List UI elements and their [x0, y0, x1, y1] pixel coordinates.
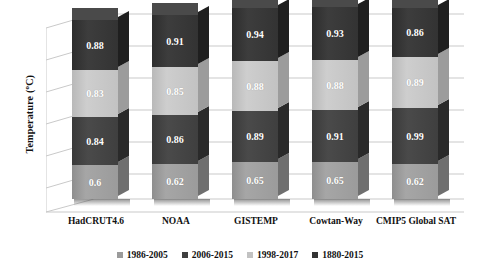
segment-1880-2015[interactable]: 0.86 [392, 8, 438, 57]
segment-1998-2017[interactable]: 0.83 [72, 70, 118, 117]
bar-top-face [152, 3, 198, 15]
segment-value: 0.94 [246, 29, 264, 40]
legend-item-1998-2017[interactable]: 1998-2017 [247, 250, 298, 260]
bar-shadow [74, 199, 130, 206]
segment-value: 0.86 [406, 27, 424, 38]
segment-value: 0.93 [326, 28, 344, 39]
segment-value: 0.84 [86, 136, 104, 147]
segment-value: 0.91 [166, 36, 184, 47]
bar-shadow [314, 199, 370, 206]
category-label-cmip5-global-sat: CMIP5 Global SAT [368, 216, 464, 227]
segment-value: 0.91 [326, 131, 344, 142]
legend-swatch-icon [312, 252, 318, 258]
segment-value: 0.88 [246, 81, 264, 92]
segment-1880-2015[interactable]: 0.88 [72, 20, 118, 70]
segment-1998-2017[interactable]: 0.88 [312, 60, 358, 110]
plot-area: 0.6 0.84 0.83 0.88 0.62 0.86 0.85 0.91 [46, 6, 464, 213]
bar-shadow [154, 199, 210, 206]
y-axis-title: Temperature (oC) [23, 44, 35, 184]
legend-item-2006-2015[interactable]: 2006-2015 [182, 250, 233, 260]
stacked-bar-chart: Temperature (oC) [0, 0, 480, 272]
y-axis-title-text: Temperature ( [24, 90, 35, 154]
bar-group-noaa[interactable]: 0.62 0.86 0.85 0.91 [152, 15, 210, 199]
segment-value: 0.89 [406, 77, 424, 88]
legend-item-1986-2005[interactable]: 1986-2005 [117, 250, 168, 260]
segment-1986-2005[interactable]: 0.65 [312, 162, 358, 199]
segment-1880-2015[interactable]: 0.93 [312, 7, 358, 60]
stacked-bar[interactable]: 0.62 0.99 0.89 0.86 [392, 8, 438, 199]
stacked-bar[interactable]: 0.62 0.86 0.85 0.91 [152, 15, 198, 199]
legend-label: 1880-2015 [322, 250, 363, 260]
chart-legend: 1986-2005 2006-2015 1998-2017 1880-2015 [0, 250, 480, 260]
segment-value: 0.62 [406, 176, 424, 187]
segment-value: 0.88 [326, 80, 344, 91]
bar-shadow [394, 199, 450, 206]
stacked-bar[interactable]: 0.6 0.84 0.83 0.88 [72, 20, 118, 199]
segment-value: 0.65 [326, 175, 344, 186]
stacked-bar[interactable]: 0.65 0.91 0.88 0.93 [312, 7, 358, 199]
segment-1986-2005[interactable]: 0.6 [72, 165, 118, 199]
y-axis-unit-text: C) [24, 75, 35, 86]
legend-label: 1998-2017 [257, 250, 298, 260]
segment-value: 0.89 [246, 131, 264, 142]
segment-1998-2017[interactable]: 0.85 [152, 67, 198, 115]
stacked-bar[interactable]: 0.65 0.89 0.88 0.94 [232, 8, 278, 199]
segment-1880-2015[interactable]: 0.91 [152, 15, 198, 67]
legend-label: 2006-2015 [192, 250, 233, 260]
segment-value: 0.65 [246, 175, 264, 186]
segment-value: 0.86 [166, 134, 184, 145]
bar-group-cowtan-way[interactable]: 0.65 0.91 0.88 0.93 [312, 7, 370, 199]
segment-2006-2015[interactable]: 0.84 [72, 117, 118, 165]
legend-label: 1986-2005 [127, 250, 168, 260]
segment-1986-2005[interactable]: 0.62 [392, 164, 438, 199]
bar-group-cmip5-global-sat[interactable]: 0.62 0.99 0.89 0.86 [392, 8, 450, 199]
segment-2006-2015[interactable]: 0.99 [392, 108, 438, 164]
legend-swatch-icon [182, 252, 188, 258]
segment-value: 0.6 [89, 177, 102, 188]
segment-value: 0.62 [166, 176, 184, 187]
segment-1986-2005[interactable]: 0.62 [152, 164, 198, 199]
segment-value: 0.83 [86, 88, 104, 99]
segment-1986-2005[interactable]: 0.65 [232, 162, 278, 199]
segment-value: 0.99 [406, 131, 424, 142]
segment-2006-2015[interactable]: 0.86 [152, 115, 198, 164]
bar-group-hadcrut46[interactable]: 0.6 0.84 0.83 0.88 [72, 20, 130, 199]
bar-group-gistemp[interactable]: 0.65 0.89 0.88 0.94 [232, 8, 290, 199]
bars-layer: 0.6 0.84 0.83 0.88 0.62 0.86 0.85 0.91 [46, 6, 464, 213]
x-axis-labels: HadCRUT4.6 NOAA GISTEMP Cowtan-Way CMIP5… [46, 216, 464, 246]
segment-2006-2015[interactable]: 0.89 [232, 111, 278, 162]
bar-top-face [392, 0, 438, 8]
bar-top-face [232, 0, 278, 8]
bar-top-face [312, 0, 358, 7]
segment-1880-2015[interactable]: 0.94 [232, 8, 278, 61]
legend-swatch-icon [247, 252, 253, 258]
segment-1998-2017[interactable]: 0.88 [232, 61, 278, 111]
legend-item-1880-2015[interactable]: 1880-2015 [312, 250, 363, 260]
segment-value: 0.88 [86, 40, 104, 51]
legend-swatch-icon [117, 252, 123, 258]
bar-shadow [234, 199, 290, 206]
segment-value: 0.85 [166, 86, 184, 97]
segment-2006-2015[interactable]: 0.91 [312, 110, 358, 162]
bar-top-face [72, 8, 118, 20]
segment-1998-2017[interactable]: 0.89 [392, 57, 438, 108]
degree-symbol: o [23, 86, 31, 90]
